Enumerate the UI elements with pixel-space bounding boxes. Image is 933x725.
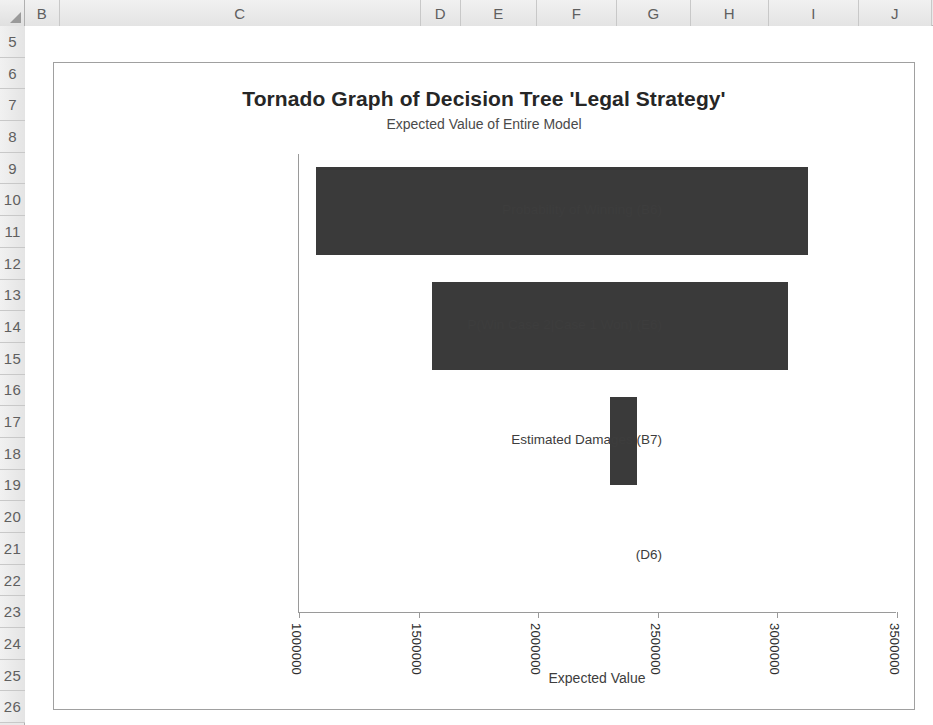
row-header-21[interactable]: 21 — [0, 533, 25, 565]
x-axis-tick — [658, 612, 659, 618]
x-axis-tick-label: 3000000 — [767, 623, 782, 675]
category-label: Probability of Winning (B6) — [502, 202, 662, 217]
row-header-12[interactable]: 12 — [0, 248, 25, 280]
x-axis-tick-label: 1000000 — [289, 623, 304, 675]
select-all-triangle-icon — [10, 12, 21, 23]
x-axis-tick — [538, 612, 539, 618]
column-header-g[interactable]: G — [617, 0, 691, 26]
column-header-b[interactable]: B — [25, 0, 60, 26]
row-header-15[interactable]: 15 — [0, 343, 25, 375]
spreadsheet-canvas: B C D E F G H I J 5678910111213141516171… — [0, 0, 933, 725]
row-header-10[interactable]: 10 — [0, 184, 25, 216]
row-header-16[interactable]: 16 — [0, 375, 25, 407]
column-header-e[interactable]: E — [461, 0, 537, 26]
column-header-c[interactable]: C — [60, 0, 421, 26]
column-header-j[interactable]: J — [859, 0, 932, 26]
tornado-chart[interactable]: Tornado Graph of Decision Tree 'Legal St… — [53, 62, 915, 710]
x-axis-tick — [897, 612, 898, 618]
column-header-d[interactable]: D — [421, 0, 461, 26]
x-axis-tick — [777, 612, 778, 618]
chart-subtitle: Expected Value of Entire Model — [54, 116, 914, 132]
row-header-8[interactable]: 8 — [0, 121, 25, 153]
column-header-row: B C D E F G H I J — [0, 0, 933, 26]
row-header-22[interactable]: 22 — [0, 565, 25, 597]
row-header-18[interactable]: 18 — [0, 438, 25, 470]
x-axis-tick — [419, 612, 420, 618]
row-header-14[interactable]: 14 — [0, 311, 25, 343]
column-header-h[interactable]: H — [691, 0, 769, 26]
x-axis-title: Expected Value — [298, 670, 896, 686]
x-axis-tick-label: 2500000 — [648, 623, 663, 675]
x-axis-tick-label: 1500000 — [409, 623, 424, 675]
row-header-column: 567891011121314151617181920212223242526 — [0, 26, 25, 725]
row-header-13[interactable]: 13 — [0, 280, 25, 312]
row-header-26[interactable]: 26 — [0, 691, 25, 723]
row-header-11[interactable]: 11 — [0, 216, 25, 248]
category-label: P(Win Case 2|Case 1 Won) (E6) — [467, 317, 662, 332]
select-all-corner-cell[interactable] — [0, 0, 25, 26]
row-header-23[interactable]: 23 — [0, 596, 25, 628]
row-header-17[interactable]: 17 — [0, 406, 25, 438]
row-header-24[interactable]: 24 — [0, 628, 25, 660]
row-header-5[interactable]: 5 — [0, 26, 25, 58]
row-header-25[interactable]: 25 — [0, 660, 25, 692]
category-label: Estimated Damages (B7) — [511, 432, 662, 447]
row-header-20[interactable]: 20 — [0, 501, 25, 533]
row-header-6[interactable]: 6 — [0, 58, 25, 90]
category-label: (D6) — [636, 547, 662, 562]
column-header-f[interactable]: F — [537, 0, 617, 26]
plot-area — [298, 154, 896, 613]
x-axis-tick-label: 3500000 — [887, 623, 902, 675]
chart-title: Tornado Graph of Decision Tree 'Legal St… — [54, 87, 914, 111]
row-header-9[interactable]: 9 — [0, 153, 25, 185]
column-header-i[interactable]: I — [769, 0, 859, 26]
x-axis-tick-label: 2000000 — [528, 623, 543, 675]
row-header-7[interactable]: 7 — [0, 89, 25, 121]
row-header-19[interactable]: 19 — [0, 470, 25, 502]
x-axis-tick — [299, 612, 300, 618]
